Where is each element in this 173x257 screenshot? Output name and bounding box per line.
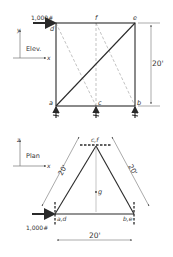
base-dim-label: 20' [89, 231, 101, 240]
node-c: c [98, 99, 102, 107]
elevation-axes-icon: y x [13, 26, 51, 61]
left-side-dim-label: 20' [57, 164, 69, 177]
axis-y-label: y [16, 26, 21, 34]
node-g: g [98, 188, 102, 196]
node-e: e [133, 14, 137, 22]
height-dim-label: 20' [152, 59, 164, 68]
elevation-load-label: 1,000# [31, 14, 53, 21]
plan-view: z x Plan g 1,000# a,d b,e c,f 20 [13, 136, 149, 240]
truss-frame [56, 23, 135, 106]
axis-x-label-plan: x [46, 162, 51, 169]
centroid-point-icon [95, 191, 97, 193]
elevation-title: Elev. [26, 45, 41, 53]
support-b-icon [132, 107, 138, 118]
support-a-icon [53, 107, 59, 118]
node-a: a [49, 99, 53, 107]
node-f: f [95, 14, 99, 22]
elevation-view: y x Elev. 1,000# d f e a c b [13, 14, 166, 118]
node-ad: a,d [57, 215, 67, 222]
plan-title: Plan [26, 152, 40, 160]
axis-x-label: x [46, 54, 51, 61]
support-icons [53, 107, 138, 118]
truss-diagram: y x Elev. 1,000# d f e a c b [0, 0, 173, 257]
plan-load-label: 1,000# [26, 224, 48, 231]
node-d: d [50, 25, 55, 33]
support-c-icon [93, 107, 99, 118]
right-side-dim-label: 20' [126, 163, 138, 176]
node-cf: c,f [91, 136, 99, 143]
node-be: b,e [123, 215, 133, 222]
